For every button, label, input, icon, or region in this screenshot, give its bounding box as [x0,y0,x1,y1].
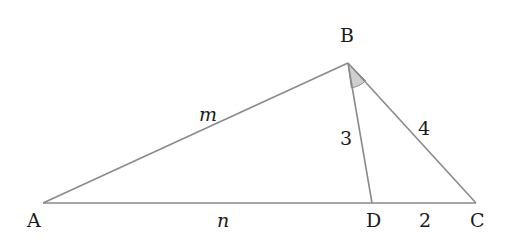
vertex-label-c: C [470,209,485,231]
side-label-dc: 2 [419,209,431,231]
triangle-diagram: A B C D m n 3 4 2 [0,0,510,244]
side-label-bc: 4 [418,117,430,139]
segment-ab [43,63,348,203]
side-label-n: n [217,209,229,231]
segment-bc [348,63,476,203]
diagram-canvas: A B C D m n 3 4 2 [0,0,510,244]
vertex-label-a: A [26,209,41,231]
side-label-bd: 3 [340,127,352,149]
side-label-m: m [199,103,217,125]
vertex-label-b: B [340,24,354,46]
vertex-label-d: D [366,209,381,231]
